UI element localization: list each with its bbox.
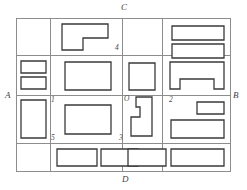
room-shape-notched-block bbox=[170, 62, 224, 89]
boundary-label-a: A bbox=[5, 91, 11, 100]
cell-label-2: 2 bbox=[169, 96, 173, 104]
room-shape-rect bbox=[128, 149, 166, 166]
room-shape-rect bbox=[172, 26, 224, 40]
boundary-label-c: C bbox=[121, 3, 127, 12]
room-shape-rect bbox=[197, 102, 224, 114]
cell-label-5: 5 bbox=[51, 134, 55, 142]
cell-label-o: O bbox=[124, 95, 129, 103]
room-shape-rect bbox=[65, 105, 111, 134]
room-shape-rect bbox=[172, 44, 224, 58]
room-shape-rect bbox=[57, 149, 97, 166]
room-shape-l-block bbox=[62, 24, 108, 50]
diagram-canvas: C A B D 4 1 O 2 5 3 bbox=[0, 0, 247, 190]
boundary-label-b: B bbox=[233, 91, 239, 100]
room-shape-rect bbox=[21, 61, 46, 73]
room-shape-rect bbox=[129, 63, 155, 90]
boundary-label-d: D bbox=[122, 175, 129, 184]
room-shape-notched-block bbox=[131, 97, 152, 136]
cell-label-4: 4 bbox=[115, 44, 119, 52]
cell-label-1: 1 bbox=[51, 96, 55, 104]
cell-label-3: 3 bbox=[119, 134, 123, 142]
room-shape-rect bbox=[21, 77, 46, 89]
room-shape-rect bbox=[171, 120, 224, 138]
room-shape-rect bbox=[65, 62, 111, 90]
room-shape-rect bbox=[171, 149, 224, 166]
room-shape-rect bbox=[21, 100, 46, 138]
